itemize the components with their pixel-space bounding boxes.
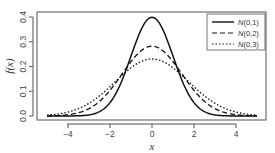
y-tick-label: 0.4 bbox=[18, 11, 28, 23]
legend-label: N(0,1) bbox=[238, 18, 259, 27]
y-tick-label: 0.2 bbox=[18, 60, 28, 72]
y-axis: 0.00.10.20.30.4 bbox=[18, 11, 33, 122]
legend-label: N(0,3) bbox=[238, 40, 259, 49]
y-tick-label: 0.1 bbox=[18, 85, 28, 97]
y-axis-title: f(x) bbox=[3, 58, 16, 74]
x-axis-title: x bbox=[149, 140, 155, 152]
curve-n-0-3- bbox=[47, 59, 257, 115]
x-tick-label: −2 bbox=[105, 129, 115, 139]
density-chart: −4−2024 0.00.10.20.30.4 x f(x) N(0,1)N(0… bbox=[0, 0, 275, 153]
y-tick-label: 0.0 bbox=[18, 110, 28, 122]
x-tick-label: 0 bbox=[150, 129, 155, 139]
x-tick-label: 2 bbox=[192, 129, 197, 139]
x-tick-label: −4 bbox=[63, 129, 73, 139]
y-tick-label: 0.3 bbox=[18, 36, 28, 48]
x-tick-label: 4 bbox=[234, 129, 239, 139]
curve-n-0-2- bbox=[47, 46, 257, 116]
x-axis: −4−2024 bbox=[63, 124, 238, 139]
legend-label: N(0,2) bbox=[238, 29, 259, 38]
legend: N(0,1)N(0,2)N(0,3) bbox=[207, 14, 265, 50]
